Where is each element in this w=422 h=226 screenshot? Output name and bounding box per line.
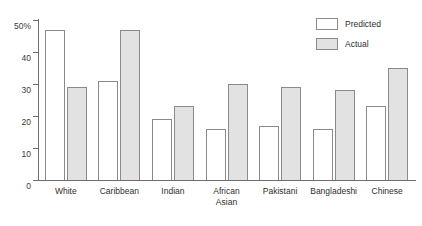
bar-group (366, 20, 408, 180)
bar-predicted (98, 81, 118, 180)
bar-predicted (366, 106, 386, 180)
x-axis-label: Pakistani (253, 186, 307, 197)
x-axis-label: African Asian (200, 186, 254, 207)
bar-group (45, 20, 87, 180)
y-tick-label: 30 (0, 79, 31, 89)
bar-predicted (152, 119, 172, 180)
bar-group (206, 20, 248, 180)
y-tick-mark (33, 116, 38, 117)
y-tick-label: 10 (0, 143, 31, 153)
bar-predicted (259, 126, 279, 180)
x-axis-label: Chinese (360, 186, 414, 197)
bar-predicted (206, 129, 226, 180)
x-axis-label: Indian (146, 186, 200, 197)
bar-predicted (45, 30, 65, 180)
bar-actual (174, 106, 194, 180)
bar-actual (335, 90, 355, 180)
bar-group (313, 20, 355, 180)
y-tick-label: 50% (0, 15, 31, 25)
y-tick-mark (33, 180, 38, 181)
y-tick-label: 0 (0, 175, 31, 185)
bar-actual (281, 87, 301, 180)
bar-actual (120, 30, 140, 180)
bar-actual (388, 68, 408, 180)
bar-chart-figure: 50%403020100 WhiteCaribbeanIndianAfrican… (0, 0, 422, 226)
y-tick-mark (33, 148, 38, 149)
y-tick-mark (33, 52, 38, 53)
y-tick-label: 40 (0, 47, 31, 57)
x-axis-label: Caribbean (93, 186, 147, 197)
x-axis-label: White (39, 186, 93, 197)
y-tick-mark (33, 84, 38, 85)
bar-predicted (313, 129, 333, 180)
bar-group (98, 20, 140, 180)
bar-group (259, 20, 301, 180)
bar-actual (228, 84, 248, 180)
bar-actual (67, 87, 87, 180)
bar-group (152, 20, 194, 180)
x-axis-label: Bangladeshi (307, 186, 361, 197)
x-axis-line (38, 180, 416, 181)
y-tick-mark (33, 20, 38, 21)
y-tick-label: 20 (0, 111, 31, 121)
